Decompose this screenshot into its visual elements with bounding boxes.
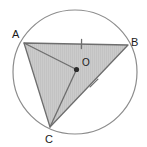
vertex-label-b: B: [131, 36, 138, 48]
vertex-label-c: C: [45, 133, 53, 145]
center-point-dot: [74, 67, 79, 72]
geometry-canvas: A B C O: [0, 0, 147, 147]
geometry-figure: A B C O: [0, 0, 147, 147]
vertex-label-a: A: [12, 28, 20, 40]
center-label-o: O: [82, 57, 90, 68]
